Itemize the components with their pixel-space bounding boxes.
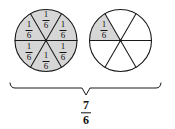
figure-container: 16161616161616 7 6 bbox=[0, 0, 175, 129]
center-dot-circle-two bbox=[119, 39, 122, 42]
total-numerator: 7 bbox=[83, 99, 89, 111]
center-dot-circle-one bbox=[45, 39, 48, 42]
total-brace bbox=[10, 83, 161, 95]
brace-group bbox=[10, 83, 161, 95]
total-denominator: 6 bbox=[83, 115, 89, 127]
total-fraction-label: 7 6 bbox=[81, 99, 91, 126]
divider-group bbox=[15, 14, 152, 68]
